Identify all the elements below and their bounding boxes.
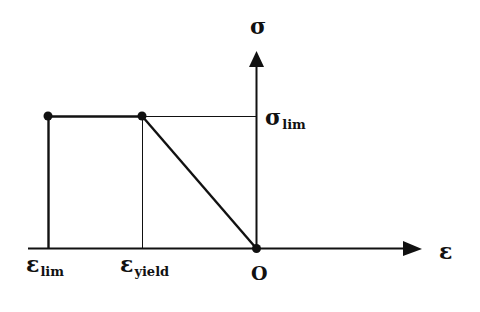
- eps-yield-symbol: ε: [120, 251, 133, 277]
- eps-yield-label: εyield: [120, 253, 169, 275]
- epsilon-symbol: ε: [439, 238, 452, 264]
- elastic-segment: [142, 116, 256, 248]
- sigma-lim-label: σlim: [265, 106, 306, 128]
- sigma-symbol: σ: [250, 13, 266, 39]
- origin-text: O: [251, 262, 268, 284]
- eps-lim-subscript: lim: [40, 264, 64, 279]
- stress-strain-diagram: [0, 0, 480, 312]
- yield-point: [138, 112, 147, 121]
- eps-lim-point: [44, 112, 53, 121]
- strain-axis-arrowhead-icon: [403, 241, 422, 256]
- stress-axis-arrowhead-icon: [249, 51, 264, 67]
- eps-lim-symbol: ε: [26, 251, 39, 277]
- origin-label: O: [251, 264, 268, 283]
- origin-point: [252, 244, 261, 253]
- stress-axis-label: σ: [250, 15, 266, 37]
- eps-yield-subscript: yield: [134, 264, 169, 279]
- sigma-lim-subscript: lim: [282, 117, 306, 132]
- eps-lim-label: εlim: [26, 253, 64, 275]
- strain-axis-label: ε: [439, 240, 452, 262]
- sigma-lim-symbol: σ: [265, 104, 281, 130]
